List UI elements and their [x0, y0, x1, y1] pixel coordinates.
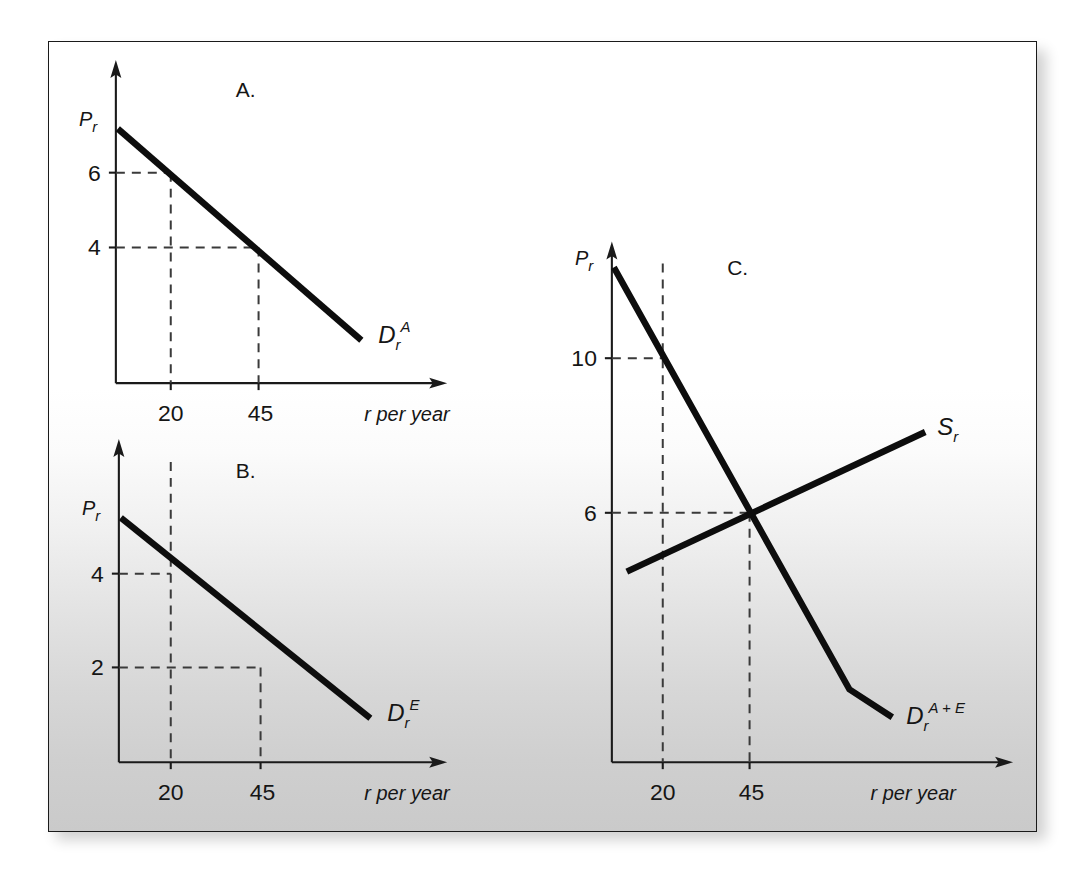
panel-c-xtick-label-45: 45	[739, 779, 765, 805]
panel-c-y-axis-label: Pr	[575, 247, 594, 274]
panel-c-ticks	[605, 358, 750, 769]
panel-c-axes	[606, 241, 1013, 767]
figure-card: A. Pr 6 4 20 45 r per year DrA	[48, 41, 1037, 832]
panel-c-guides	[612, 263, 750, 762]
panel-c-title: C.	[727, 256, 748, 279]
panel-c-supply-curve	[627, 432, 925, 572]
panel-c-demand-label: DrA + E	[906, 699, 966, 734]
panel-c-ytick-label-6: 6	[584, 500, 597, 526]
panel-c-labels: C. Pr 10 6 20 45 r per year Sr DrA + E	[571, 247, 966, 805]
panel-c-ytick-label-10: 10	[571, 345, 597, 371]
panel-c-supply-label: Sr	[937, 413, 959, 445]
figure-root: A. Pr 6 4 20 45 r per year DrA	[0, 0, 1083, 876]
panel-c-demand-curve	[614, 267, 892, 717]
panel-c: C. Pr 10 6 20 45 r per year Sr DrA + E	[49, 42, 1036, 831]
panel-c-xtick-label-20: 20	[650, 779, 676, 805]
panel-c-x-axis-label: r per year	[871, 782, 958, 804]
